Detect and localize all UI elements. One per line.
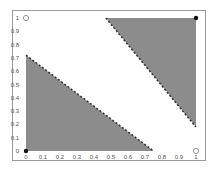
x-tick-label: 0.7 bbox=[141, 154, 150, 160]
open-point-marker bbox=[193, 148, 198, 153]
y-tick-label: 0.7 bbox=[11, 55, 20, 61]
y-tick-label: 0 bbox=[16, 148, 20, 154]
x-tick-label: 1 bbox=[194, 154, 198, 160]
y-tick-label: 0.3 bbox=[11, 108, 20, 114]
x-tick-label: 0.5 bbox=[107, 154, 116, 160]
x-tick-label: 0.3 bbox=[73, 154, 82, 160]
filled-point-marker bbox=[194, 16, 198, 20]
x-tick-label: 0.2 bbox=[56, 154, 65, 160]
y-tick-label: 0.2 bbox=[11, 121, 20, 127]
plot-area: 00.10.20.30.40.50.60.70.80.9100.10.20.30… bbox=[0, 0, 211, 172]
y-tick-label: 0.5 bbox=[11, 82, 20, 88]
filled-point-marker bbox=[24, 149, 28, 153]
open-point-marker bbox=[23, 15, 28, 20]
x-tick-label: 0.4 bbox=[90, 154, 99, 160]
y-tick-label: 1 bbox=[16, 15, 20, 21]
y-tick-label: 0.9 bbox=[11, 28, 20, 34]
y-tick-label: 0.1 bbox=[11, 135, 20, 141]
y-tick-label: 0.6 bbox=[11, 68, 20, 74]
y-tick-label: 0.4 bbox=[11, 95, 20, 101]
x-tick-label: 0 bbox=[24, 154, 28, 160]
x-tick-label: 0.1 bbox=[39, 154, 48, 160]
x-tick-label: 0.8 bbox=[158, 154, 167, 160]
y-tick-label: 0.8 bbox=[11, 42, 20, 48]
x-tick-label: 0.9 bbox=[175, 154, 184, 160]
x-tick-label: 0.6 bbox=[124, 154, 133, 160]
